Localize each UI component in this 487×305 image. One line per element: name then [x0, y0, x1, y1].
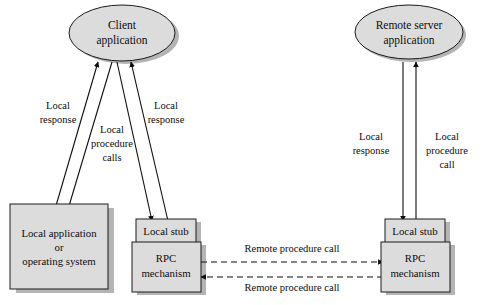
label-server-response-line1: Local: [359, 131, 383, 142]
client-application-label-line2: application: [96, 34, 147, 47]
local-application-os-label-line1: Local application: [21, 227, 97, 239]
label-server-response-line2: response: [353, 145, 390, 156]
diagram-svg: Client application Remote server applica…: [0, 0, 487, 305]
label-client-os-response-line1: Local: [46, 100, 70, 111]
label-server-call-line1: Local: [435, 131, 459, 142]
remote-server-application-label-line1: Remote server: [376, 19, 443, 31]
label-server-call-line3: call: [439, 159, 454, 170]
label-client-os-response-line2: response: [40, 114, 77, 125]
server-rpc-mechanism-label-line1: RPC: [405, 252, 425, 264]
local-application-os-label-line2: or: [55, 241, 64, 253]
label-remote-procedure-call-inbound: Remote procedure call: [244, 282, 339, 293]
client-local-stub-label: Local stub: [143, 225, 188, 237]
rpc-diagram-canvas: Client application Remote server applica…: [0, 0, 487, 305]
server-rpc-mechanism-label-line2: mechanism: [390, 267, 440, 279]
label-client-os-calls-line1: Local: [100, 124, 124, 135]
label-client-stub-response-line2: response: [148, 114, 185, 125]
client-application-label-line1: Client: [108, 19, 137, 31]
label-server-call-line2: procedure: [426, 145, 468, 156]
label-remote-procedure-call-outbound: Remote procedure call: [244, 243, 339, 254]
label-client-os-calls-line3: calls: [102, 152, 121, 163]
label-client-stub-response-line1: Local: [154, 100, 178, 111]
remote-server-application-node[interactable]: [355, 5, 463, 59]
label-client-os-calls-line2: procedure: [91, 138, 133, 149]
server-local-stub-label: Local stub: [392, 225, 437, 237]
client-rpc-mechanism-label-line1: RPC: [156, 252, 176, 264]
edge-local-response-stub-to-client: [131, 62, 168, 221]
local-application-os-label-line3: operating system: [22, 255, 96, 267]
remote-server-application-label-line2: application: [383, 34, 434, 47]
client-rpc-mechanism-label-line2: mechanism: [141, 267, 191, 279]
